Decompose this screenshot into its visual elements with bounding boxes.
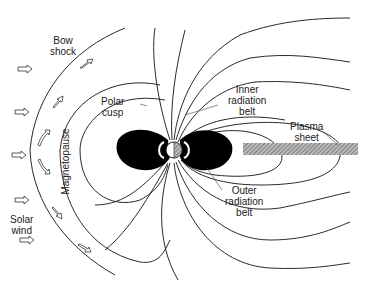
magnetosphere-diagram: Bow shock Polar cusp Magnetopause Solar …	[0, 0, 375, 300]
field-line	[105, 163, 168, 250]
field-line	[162, 163, 178, 280]
polar-cusp-label: Polar cusp	[101, 96, 124, 118]
inner-radiation-belt-label: Inner radiation belt	[228, 84, 266, 117]
radiation-belt-left	[117, 130, 170, 170]
bow-shock-label: Bow shock	[50, 35, 76, 57]
plasma-sheet-label: Plasma sheet	[290, 121, 323, 143]
bow-shock-line	[30, 28, 125, 275]
magnetopause-label: Magnetopause	[60, 128, 71, 194]
solar-wind-label: Solar wind	[10, 214, 33, 236]
field-line	[172, 30, 185, 140]
plasma-sheet	[243, 143, 358, 155]
field-line	[174, 18, 350, 140]
outer-radiation-belt-label: Outer radiation belt	[225, 185, 263, 218]
radiation-belt-right	[180, 130, 232, 170]
